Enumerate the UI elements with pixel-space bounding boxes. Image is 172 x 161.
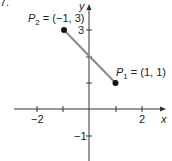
point-p1: [113, 80, 119, 86]
x-axis-arrow-icon: [160, 107, 166, 112]
label-p1: P1 = (1, 1): [116, 66, 166, 81]
label-p2: P2 = (−1, 3): [28, 12, 84, 27]
y-tick-label-neg1: −1: [74, 130, 87, 142]
segment-p2-p1: [64, 30, 116, 83]
x-tick-label-neg2: −2: [31, 113, 44, 125]
y-axis-label: y: [78, 0, 86, 12]
x-tick-label-2: 2: [139, 113, 145, 125]
y-tick-label-3: 3: [78, 24, 84, 36]
coordinate-plane: P2 = (−1, 3) P1 = (1, 1) y x −2 2 3 −1: [0, 0, 172, 161]
y-axis-arrow-icon: [87, 4, 92, 10]
x-axis-label: x: [160, 113, 167, 125]
point-p2: [61, 27, 67, 33]
